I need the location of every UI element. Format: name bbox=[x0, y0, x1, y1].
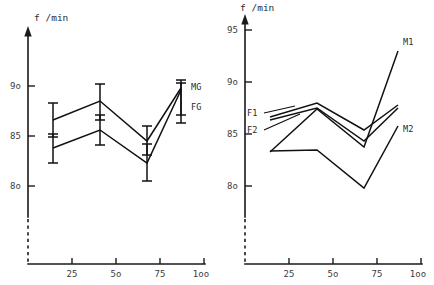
series-label-m1: M1 bbox=[403, 37, 413, 47]
series-label-f1: F1 bbox=[247, 108, 257, 118]
chart-panel-right: f /min 95 9o 85 8o 25 5o 75 1oo F1 F2 M1… bbox=[217, 0, 434, 285]
chart-panel-left: f /min 9o 85 8o 25 5o 75 1oo bbox=[0, 0, 217, 285]
y-tick-label-90-right: 9o bbox=[227, 77, 238, 87]
leader-line-f1 bbox=[264, 106, 295, 113]
plot-area-right: f /min 95 9o 85 8o 25 5o 75 1oo F1 F2 M1… bbox=[217, 0, 434, 285]
x-tick-label-100-left: 1oo bbox=[193, 269, 209, 279]
x-tick-label-75-left: 75 bbox=[155, 269, 166, 279]
series-label-fg: FG bbox=[191, 102, 201, 112]
series-line-mg bbox=[53, 88, 181, 141]
series-label-mg: MG bbox=[191, 82, 201, 92]
y-tick-label-80-left: 8o bbox=[10, 181, 21, 191]
y-axis-arrow-right bbox=[241, 14, 248, 25]
x-tick-label-25-left: 25 bbox=[67, 269, 78, 279]
series-label-m2: M2 bbox=[403, 124, 413, 134]
series-label-f2: F2 bbox=[247, 125, 257, 135]
y-axis-arrow-left bbox=[24, 26, 31, 37]
error-bar-group-mg bbox=[48, 80, 186, 155]
y-tick-label-85-right: 85 bbox=[227, 129, 238, 139]
y-tick-label-85-left: 85 bbox=[10, 131, 21, 141]
y-axis-title-right: f /min bbox=[240, 2, 274, 13]
series-line-fg bbox=[53, 90, 181, 163]
x-tick-label-25-right: 25 bbox=[284, 269, 295, 279]
error-bar-group-fg bbox=[48, 83, 186, 181]
series-line-m1 bbox=[270, 51, 398, 152]
figure-canvas: f /min 9o 85 8o 25 5o 75 1oo bbox=[0, 0, 434, 285]
y-tick-label-90-left: 9o bbox=[10, 81, 21, 91]
x-tick-label-50-right: 5o bbox=[328, 269, 339, 279]
plot-area-left: f /min 9o 85 8o 25 5o 75 1oo bbox=[0, 0, 217, 285]
x-tick-label-50-left: 5o bbox=[111, 269, 122, 279]
x-tick-label-75-right: 75 bbox=[372, 269, 383, 279]
y-tick-label-95-right: 95 bbox=[227, 25, 238, 35]
x-tick-label-100-right: 1oo bbox=[410, 269, 426, 279]
y-tick-label-80-right: 8o bbox=[227, 181, 238, 191]
y-axis-title-left: f /min bbox=[34, 12, 68, 23]
